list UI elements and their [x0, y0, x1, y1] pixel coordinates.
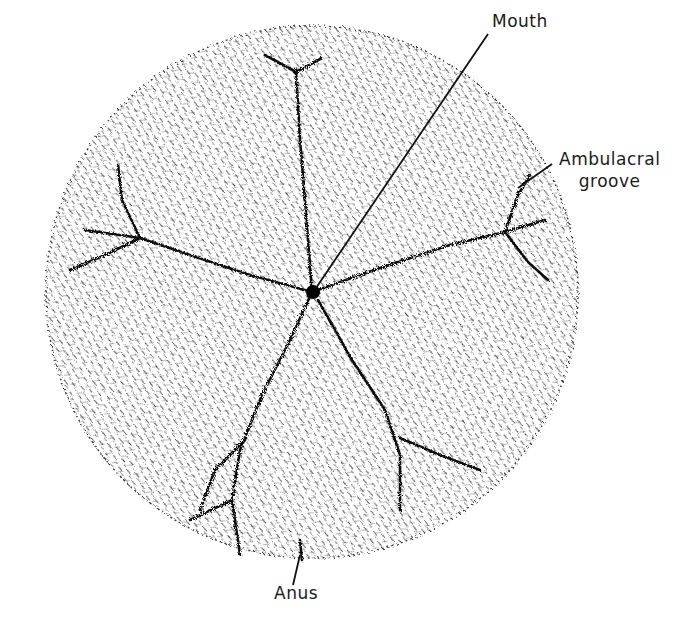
ambulacral-groove-label: Ambulacral groove — [559, 148, 660, 192]
anus-leader — [293, 555, 300, 585]
mouth-label: Mouth — [492, 10, 548, 32]
echinoderm-oral-view-diagram — [0, 0, 700, 629]
ambulacral-label-line2: groove — [559, 170, 660, 192]
mouth-opening — [306, 285, 320, 299]
anus-label: Anus — [274, 582, 318, 604]
ambulacral-label-line1: Ambulacral — [559, 148, 660, 170]
